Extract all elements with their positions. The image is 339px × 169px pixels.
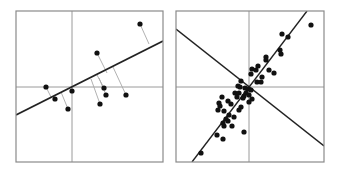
data-point [246, 99, 251, 104]
data-point [279, 31, 284, 36]
data-point [237, 84, 242, 89]
data-point [137, 21, 142, 26]
residual-segment [61, 92, 68, 109]
data-point [101, 85, 106, 90]
data-point [97, 101, 102, 106]
data-point [238, 78, 243, 83]
data-point [198, 150, 203, 155]
scatter-figure [0, 0, 339, 169]
data-point [308, 22, 313, 27]
panel-content [16, 21, 163, 115]
data-point [263, 57, 268, 62]
data-point [229, 123, 234, 128]
residual-segment [140, 24, 149, 44]
data-point [103, 92, 108, 97]
data-point [215, 107, 220, 112]
data-point [231, 114, 236, 119]
data-point [236, 107, 241, 112]
residual-segment [91, 79, 100, 104]
data-point [219, 94, 224, 99]
data-point [52, 96, 57, 101]
data-point [214, 132, 219, 137]
data-point [240, 95, 245, 100]
data-point [278, 51, 283, 56]
data-point [65, 106, 70, 111]
left-panel [16, 11, 163, 162]
data-point [221, 123, 226, 128]
data-point [271, 70, 276, 75]
data-point [248, 87, 253, 92]
data-point [123, 92, 128, 97]
data-point [220, 136, 225, 141]
residual-segment [113, 67, 126, 95]
data-point [234, 94, 239, 99]
figure-canvas [0, 0, 339, 169]
data-point [285, 34, 290, 39]
data-point [248, 71, 253, 76]
data-point [259, 74, 264, 79]
data-point [266, 67, 271, 72]
fit-line [16, 41, 163, 115]
data-point [228, 101, 233, 106]
data-point [225, 118, 230, 123]
right-panel [176, 11, 324, 162]
data-point [241, 129, 246, 134]
data-point [253, 67, 258, 72]
data-point [43, 84, 48, 89]
data-point [221, 108, 226, 113]
data-point [94, 50, 99, 55]
data-point [69, 88, 74, 93]
data-point [258, 79, 263, 84]
